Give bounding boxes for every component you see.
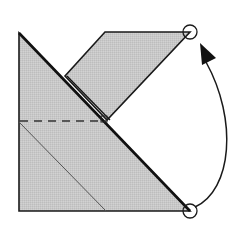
origami-diagram <box>0 0 245 243</box>
fold-arrow-path <box>195 62 227 207</box>
arrowhead-icon <box>200 43 216 65</box>
